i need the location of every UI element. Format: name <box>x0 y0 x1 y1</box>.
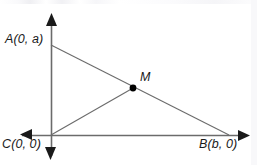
triangle-segments-group <box>51 45 229 135</box>
y-axis-bottom-arrowhead <box>45 147 56 160</box>
point-label-a: A(0, a) <box>5 33 43 46</box>
segment-CM <box>51 88 134 136</box>
x-axis-right-arrowhead <box>238 130 250 141</box>
point-m-marker <box>130 85 137 92</box>
geometry-figure: A(0, a) C(0, 0) B(b, 0) M <box>0 0 257 165</box>
y-axis-top-arrowhead <box>46 13 57 26</box>
point-label-m: M <box>140 71 151 84</box>
segment-AB <box>51 45 229 135</box>
point-label-b: B(b, 0) <box>199 138 237 151</box>
point-label-c: C(0, 0) <box>2 138 41 151</box>
